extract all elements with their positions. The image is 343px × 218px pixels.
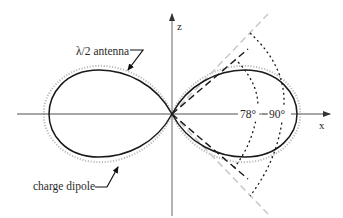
antenna-label: λ/2 antenna xyxy=(76,45,129,57)
antenna-leader-line xyxy=(128,50,143,70)
diagram-canvas: 78° 90° x z λ/2 antenna charge dipole xyxy=(0,0,343,218)
dipole-label: charge dipole xyxy=(33,180,95,193)
z-axis-label: z xyxy=(177,20,182,32)
x-axis-label: x xyxy=(319,119,325,131)
radiation-pattern-diagram: 78° 90° x z λ/2 antenna charge dipole xyxy=(0,0,343,218)
angle-label-78: 78° xyxy=(240,108,257,120)
angle-label-90: 90° xyxy=(269,108,286,120)
dipole-leader-line xyxy=(95,167,118,187)
